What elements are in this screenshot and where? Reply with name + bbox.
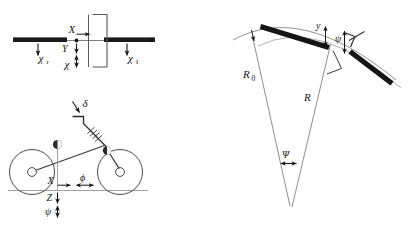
front-axle-bar xyxy=(104,37,155,42)
label-radius-inner: R xyxy=(303,91,311,103)
label-axis-z: Z xyxy=(47,192,53,203)
label-yaw-psi: ψ xyxy=(45,206,52,217)
origin-point xyxy=(75,39,79,43)
label-path-angle-psi: Ψ xyxy=(282,149,290,160)
label-steer-angle-delta: δ xyxy=(83,97,89,109)
label-lateral-offset-y: y xyxy=(315,20,321,31)
figure-root: χ r χ f X Y χ xyxy=(0,0,416,236)
label-axis-x-bottom: X xyxy=(47,175,55,186)
label-roll-phi: ϕ xyxy=(80,172,85,183)
label-axis-x-top: X xyxy=(68,23,77,35)
label-radius-outer: R xyxy=(242,68,250,80)
label-heading-psi: ψ xyxy=(335,33,342,44)
label-radius-outer-subscript: 0 xyxy=(252,74,256,83)
rear-axle-bar xyxy=(13,37,67,42)
diagram-canvas: χ r χ f X Y χ xyxy=(0,0,416,236)
front-point xyxy=(149,39,152,42)
